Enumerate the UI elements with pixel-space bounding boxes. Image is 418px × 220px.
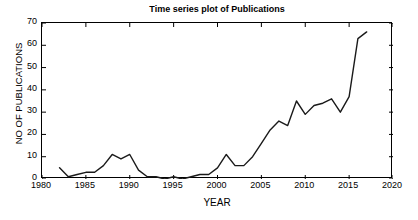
axis-tick-marks	[42, 23, 393, 179]
plot-area	[41, 22, 392, 178]
x-tick-label: 2020	[372, 181, 412, 190]
x-tick-label: 2010	[284, 181, 324, 190]
y-tick-label: 60	[3, 39, 37, 48]
data-line	[60, 32, 367, 179]
x-axis-label: YEAR	[41, 197, 393, 208]
y-tick-label: 70	[3, 17, 37, 26]
y-tick-label: 40	[3, 84, 37, 93]
x-axis-tick-labels: 198019851990199520002005201020152020	[0, 181, 418, 195]
y-tick-label: 10	[3, 151, 37, 160]
x-tick-label: 1995	[153, 181, 193, 190]
y-tick-label: 50	[3, 62, 37, 71]
chart-figure: Time series plot of Publications NO OF P…	[0, 0, 418, 220]
x-tick-label: 1980	[21, 181, 61, 190]
x-tick-label: 1985	[65, 181, 105, 190]
x-tick-label: 2015	[328, 181, 368, 190]
y-tick-label: 30	[3, 106, 37, 115]
x-tick-label: 2005	[240, 181, 280, 190]
x-tick-label: 2000	[197, 181, 237, 190]
x-tick-label: 1990	[109, 181, 149, 190]
series-line-publications	[42, 23, 393, 179]
y-tick-label: 20	[3, 128, 37, 137]
chart-title: Time series plot of Publications	[41, 4, 393, 14]
